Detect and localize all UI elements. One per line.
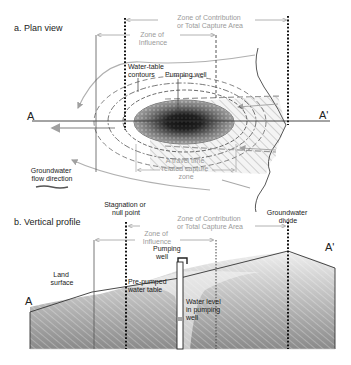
profile-label-a-prime: A' <box>325 241 334 253</box>
zone-contribution-label: Zone of Contribution or Total Capture Ar… <box>177 215 243 231</box>
groundwater-divide-label: Groundwater divide <box>267 209 309 224</box>
vertical-profile: b. Vertical profile A A' Zone of Contrib… <box>14 201 335 349</box>
water-table-contours-label: Water-table contours <box>128 63 166 78</box>
land-surface-label: Land surface <box>51 271 74 286</box>
flow-line <box>222 180 250 188</box>
zone-contribution-label: Zone of Contribution or Total Capture Ar… <box>177 14 243 30</box>
section-label-a: A <box>27 110 35 122</box>
groundwater-capture-zone-diagram: a. Plan view A A' <box>0 0 351 365</box>
profile-label-a: A <box>25 295 33 307</box>
flow-direction-label: Groundwater flow direction <box>31 167 73 182</box>
pumping-well-label: Pumping well <box>165 71 207 79</box>
cone-of-depression-core <box>134 100 234 144</box>
travel-time-zone-label: A travel time related capture zone <box>162 157 211 180</box>
section-label-a-prime: A' <box>319 109 328 121</box>
flow-direction-icon <box>36 186 68 188</box>
zone-influence-label: Zone of Influence <box>139 31 168 46</box>
stagnation-point-label: Stagnation or null point <box>104 201 148 217</box>
plan-view: a. Plan view A A' <box>14 14 330 212</box>
plan-view-title: a. Plan view <box>14 23 63 33</box>
vertical-profile-title: b. Vertical profile <box>14 217 81 227</box>
zone-influence-label: Zone of Influence <box>143 230 172 245</box>
